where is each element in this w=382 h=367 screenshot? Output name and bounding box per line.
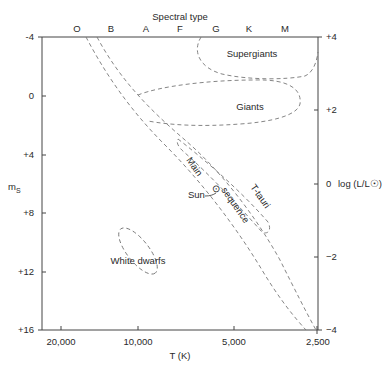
right-axis-label: log (L/L☉) — [338, 178, 382, 189]
right-tick-2: +2 — [326, 104, 337, 115]
left-axis: -4 0 +4 +8 +12 +16 mS — [8, 31, 46, 335]
sun-label: Sun — [188, 189, 205, 200]
left-axis-label: mS — [8, 181, 21, 194]
spectral-f: F — [177, 23, 183, 34]
spectral-o: O — [73, 23, 80, 34]
sequence-label: sequence — [219, 185, 252, 225]
temp-axis-label: T (K) — [170, 350, 191, 361]
temp-tick-20000: 20,000 — [46, 336, 75, 347]
giants-region — [138, 80, 300, 126]
white-dwarfs-region — [112, 222, 164, 280]
spectral-m: M — [281, 23, 289, 34]
right-tick-4: +4 — [326, 31, 337, 42]
temp-tick-5000: 5,000 — [222, 336, 246, 347]
temp-tick-2500: 2,500 — [306, 336, 330, 347]
left-tick-12: +12 — [18, 266, 34, 277]
sun-icon: ⊙ — [212, 183, 220, 194]
spectral-g: G — [212, 23, 219, 34]
left-tick-16: +16 — [18, 324, 34, 335]
left-tick-8: +8 — [23, 207, 34, 218]
left-tick-4: +4 — [23, 149, 34, 160]
temp-tick-10000: 10,000 — [123, 336, 152, 347]
main-sequence-upper-edge — [97, 37, 316, 330]
right-tick--4: −4 — [326, 324, 337, 335]
t-tauri-label: T-tauri — [248, 182, 272, 210]
bottom-axis: 20,000 10,000 5,000 2,500 T (K) — [46, 326, 329, 361]
right-tick--2: −2 — [326, 251, 337, 262]
right-tick-0: 0 — [326, 178, 331, 189]
left-tick-0: 0 — [29, 90, 34, 101]
supergiants-label: Supergiants — [227, 48, 278, 59]
spectral-k: K — [246, 23, 253, 34]
spectral-type-labels: O B A F G K M — [73, 23, 289, 34]
spectral-type-title: Spectral type — [152, 11, 207, 22]
right-axis: +4 +2 0 log (L/L☉) −2 −4 — [314, 31, 382, 335]
hr-diagram: Spectral type O B A F G K M -4 0 +4 +8 +… — [0, 0, 382, 367]
spectral-a: A — [143, 23, 150, 34]
spectral-b: B — [108, 23, 114, 34]
left-tick--4: -4 — [26, 31, 34, 42]
giants-label: Giants — [236, 101, 264, 112]
white-dwarfs-label: White dwarfs — [111, 255, 166, 266]
